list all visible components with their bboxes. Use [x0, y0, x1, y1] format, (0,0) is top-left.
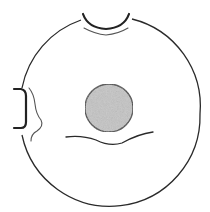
diagram-canvas: Circular outline with a notch at the top…	[0, 0, 210, 212]
left-bracket	[14, 89, 26, 128]
top-notch	[83, 14, 129, 29]
lower-wavy-line	[66, 132, 153, 144]
diagram-svg	[0, 0, 210, 212]
central-disc	[85, 84, 133, 132]
left-wavy-line	[29, 88, 42, 141]
